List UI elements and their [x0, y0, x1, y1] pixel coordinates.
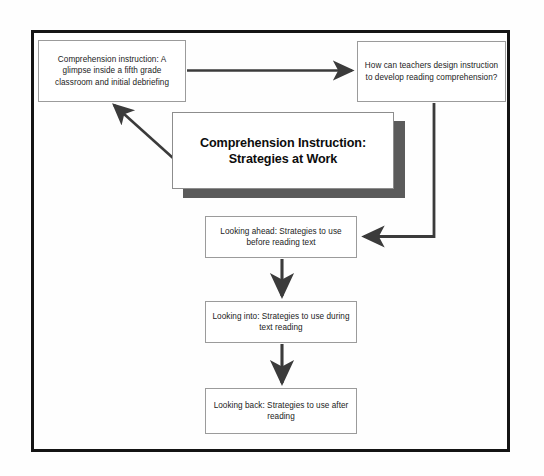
node-looking-back[interactable]: Looking back: Strategies to use after re…	[205, 388, 357, 434]
node-comprehension-instruction-glimpse[interactable]: Comprehension instruction: A glimpse ins…	[38, 40, 186, 102]
title-card: Comprehension Instruction: Strategies at…	[172, 112, 394, 189]
node-looking-into[interactable]: Looking into: Strategies to use during t…	[205, 301, 357, 343]
node-label: Comprehension instruction: A glimpse ins…	[45, 54, 179, 89]
node-label: Looking back: Strategies to use after re…	[212, 400, 350, 423]
node-guiding-question[interactable]: How can teachers design instruction to d…	[357, 41, 506, 102]
node-label: How can teachers design instruction to d…	[364, 60, 499, 83]
node-looking-ahead[interactable]: Looking ahead: Strategies to use before …	[205, 216, 357, 258]
node-label: Looking ahead: Strategies to use before …	[212, 226, 350, 249]
title-line-1: Comprehension Instruction:	[200, 136, 366, 150]
diagram-page: Comprehension instruction: A glimpse ins…	[0, 0, 544, 476]
title-card-text: Comprehension Instruction: Strategies at…	[200, 135, 366, 167]
node-label: Looking into: Strategies to use during t…	[212, 311, 350, 334]
title-line-2: Strategies at Work	[229, 152, 338, 166]
